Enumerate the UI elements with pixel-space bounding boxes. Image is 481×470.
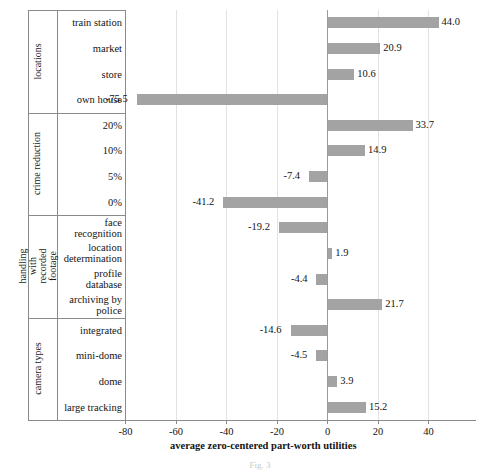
x-tick-mark-0	[327, 420, 328, 424]
category-label: face recognition	[58, 217, 122, 239]
category-label: market	[58, 43, 122, 54]
bar	[137, 94, 328, 105]
x-tick-mark--60	[176, 420, 177, 424]
category-label: dome	[58, 376, 122, 387]
bar	[328, 43, 381, 54]
bar-value-label: -41.2	[192, 196, 214, 207]
bar-value-label: 1.9	[335, 247, 348, 258]
bar	[309, 171, 328, 182]
bar	[316, 350, 327, 361]
x-tick-mark--80	[125, 420, 126, 424]
bar	[223, 197, 327, 208]
category-label: profile database	[58, 268, 122, 290]
x-tick-mark--20	[277, 420, 278, 424]
bar-value-label: -4.5	[291, 349, 308, 360]
gridline-20	[378, 10, 379, 420]
x-tick-label--80: -80	[106, 426, 146, 438]
x-tick-label-40: 40	[409, 426, 449, 438]
category-label: 0%	[58, 197, 122, 208]
bar	[328, 376, 338, 387]
bar	[279, 222, 327, 233]
bar	[328, 17, 439, 28]
bar-value-label: -14.6	[260, 324, 282, 335]
bar-value-label: -75.5	[106, 93, 128, 104]
bar-value-label: 14.9	[368, 144, 386, 155]
gridline--20	[277, 10, 278, 420]
category-label: large tracking	[58, 402, 122, 413]
bar	[328, 402, 366, 413]
x-tick-mark--40	[226, 420, 227, 424]
bar	[328, 120, 413, 131]
group-title-label: camera types	[32, 343, 43, 395]
group-title-0: locations	[28, 10, 46, 113]
gridline-40	[428, 10, 429, 420]
x-axis-title: average zero-centered part-worth utiliti…	[170, 440, 470, 451]
category-label: mini-dome	[58, 350, 122, 361]
x-tick-label-20: 20	[358, 426, 398, 438]
category-label: archiving by police	[58, 294, 122, 316]
bar-value-label: 15.2	[369, 401, 387, 412]
bar-value-label: 10.6	[357, 68, 375, 79]
bar-value-label: 3.9	[340, 375, 353, 386]
bar-value-label: 44.0	[442, 16, 460, 27]
bar-value-label: 20.9	[383, 42, 401, 53]
bar	[328, 248, 333, 259]
gridline--60	[176, 10, 177, 420]
gridline--40	[226, 10, 227, 420]
x-tick-mark-40	[428, 420, 429, 424]
bar-value-label: 33.7	[416, 119, 434, 130]
figure-caption: Fig. 3	[120, 460, 400, 470]
bar-value-label: -19.2	[248, 221, 270, 232]
category-label: location determination	[58, 242, 122, 264]
bar	[328, 299, 383, 310]
category-label: integrated	[58, 325, 122, 336]
category-label: train station	[58, 17, 122, 28]
group-title-label: handling with recorded footage	[17, 249, 57, 284]
x-tick-mark-20	[378, 420, 379, 424]
x-tick-label--20: -20	[257, 426, 297, 438]
group-title-3: camera types	[28, 318, 46, 421]
category-label: 10%	[58, 145, 122, 156]
group-title-2: handling with recorded footage	[28, 215, 46, 318]
x-tick-label-0: 0	[308, 426, 348, 438]
bar-value-label: -7.4	[283, 170, 300, 181]
group-title-label: crime reduction	[32, 132, 43, 195]
x-tick-label--40: -40	[207, 426, 247, 438]
x-tick-label--60: -60	[156, 426, 196, 438]
x-axis-baseline	[28, 420, 476, 421]
bar	[316, 274, 327, 285]
group-title-label: locations	[32, 43, 43, 79]
group-title-1: crime reduction	[28, 113, 46, 216]
bar	[328, 69, 355, 80]
bar	[291, 325, 328, 336]
category-label: 5%	[58, 171, 122, 182]
bar-value-label: 21.7	[385, 298, 403, 309]
category-label: 20%	[58, 120, 122, 131]
category-label: store	[58, 69, 122, 80]
bar-value-label: -4.4	[291, 273, 308, 284]
bar	[328, 145, 366, 156]
